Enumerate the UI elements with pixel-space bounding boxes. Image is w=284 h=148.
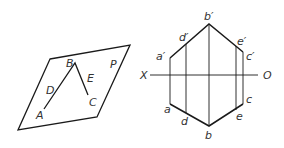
label-a-upper: A [35, 109, 44, 122]
label-d-prime: d′ [179, 31, 189, 44]
label-c-upper: C [89, 96, 97, 109]
axis-label-o: O [263, 69, 272, 82]
projection-figure: X O a′ d′ b′ e′ c′ a d b e c [139, 10, 272, 142]
label-e-upper: E [87, 72, 94, 85]
label-e-prime: e′ [237, 35, 247, 48]
axis-label-x: X [139, 69, 148, 82]
label-c-prime: c′ [246, 50, 255, 63]
projection-diagram: A B C D E P X O a′ d′ b′ e′ c′ a d b e c [0, 0, 284, 148]
label-b-lower: b [205, 129, 212, 142]
label-d-upper: D [46, 84, 54, 97]
label-a-prime: a′ [156, 50, 166, 63]
label-a-lower: a [164, 103, 171, 116]
label-b-upper: B [66, 57, 74, 70]
plane-figure: A B C D E P [18, 45, 130, 130]
label-e-lower: e [236, 110, 243, 123]
label-d-lower: d [181, 115, 189, 128]
label-plane-p: P [110, 58, 117, 71]
label-b-prime: b′ [204, 10, 214, 23]
label-c-lower: c [246, 93, 252, 106]
